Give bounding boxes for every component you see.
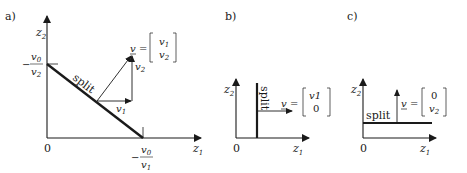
- vector-definition: v = v1 v2: [130, 33, 176, 62]
- svg-text:v1: v1: [309, 90, 321, 101]
- svg-text:=: =: [410, 98, 418, 109]
- svg-text:v: v: [281, 98, 287, 109]
- z2-axis-label: z2: [350, 83, 362, 98]
- svg-text:v1: v1: [159, 36, 169, 49]
- split-label: split: [366, 109, 391, 122]
- svg-text:=: =: [290, 98, 298, 109]
- z1-axis-label: z1: [292, 142, 303, 157]
- z1-axis-label: z1: [419, 142, 430, 157]
- panel-a: a) z2 z1 0 − v0 v2 − v0 v1 split: [5, 10, 203, 172]
- svg-text:v2: v2: [31, 66, 42, 79]
- svg-text:−: −: [22, 59, 30, 70]
- origin-label: 0: [233, 142, 240, 155]
- v2-label: v2: [135, 61, 146, 74]
- svg-text:v2: v2: [159, 49, 170, 62]
- vector-definition: v = v1 0: [281, 88, 330, 116]
- svg-text:v1: v1: [141, 159, 151, 172]
- z2-axis-label: z2: [35, 26, 47, 41]
- svg-text:v0: v0: [141, 144, 152, 157]
- svg-text:v0: v0: [31, 51, 42, 64]
- y-intercept-label: − v0 v2: [22, 51, 43, 79]
- svg-text:0: 0: [431, 90, 437, 101]
- svg-text:v: v: [401, 98, 407, 109]
- panel-c: c) z2 z1 0 split v = 0 v2: [347, 10, 446, 157]
- panel-a-label: a): [5, 10, 16, 23]
- svg-text:−: −: [131, 152, 139, 163]
- vector-v-arrow: [97, 56, 131, 101]
- z1-axis-label: z1: [192, 142, 203, 157]
- vector-definition: v = 0 v2: [401, 88, 446, 116]
- v1-label: v1: [116, 103, 126, 116]
- diagram-canvas: a) z2 z1 0 − v0 v2 − v0 v1 split: [0, 0, 467, 173]
- panel-b-label: b): [225, 10, 236, 23]
- split-label: split: [258, 86, 271, 111]
- x-intercept-label: − v0 v1: [131, 144, 153, 172]
- origin-label: 0: [44, 142, 51, 155]
- panel-b: b) z2 z1 0 split v = v1 0: [223, 10, 330, 157]
- panel-c-label: c): [347, 10, 357, 23]
- origin-label: 0: [360, 142, 367, 155]
- svg-text:v2: v2: [429, 103, 440, 116]
- svg-text:=: =: [139, 43, 147, 54]
- svg-text:v: v: [130, 43, 136, 54]
- z2-axis-label: z2: [223, 83, 235, 98]
- svg-text:0: 0: [313, 103, 319, 114]
